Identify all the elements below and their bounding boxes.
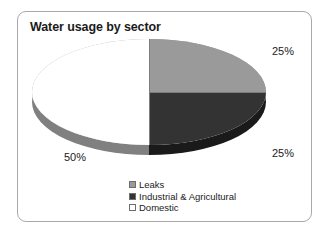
legend-label-industrial: Industrial & Agricultural [139,191,236,202]
pie-chart-3d [32,39,266,159]
legend-item-domestic[interactable]: Domestic [129,202,236,214]
legend-item-leaks[interactable]: Leaks [129,179,236,191]
legend-label-domestic: Domestic [139,202,179,213]
chart-panel: Water usage by sector 25% 25% 50% Leaks … [17,11,312,222]
legend-item-industrial[interactable]: Industrial & Agricultural [129,191,236,203]
data-label-leaks: 25% [272,45,294,57]
chart-title: Water usage by sector [30,20,161,34]
legend-swatch-leaks [129,181,136,188]
data-label-industrial: 25% [272,147,294,159]
slice-divider-horizontal [149,92,266,93]
legend-swatch-industrial [129,193,136,200]
legend-label-leaks: Leaks [139,179,164,190]
chart-legend: Leaks Industrial & Agricultural Domestic [129,179,236,214]
legend-swatch-domestic [129,204,136,211]
pie-top-face [32,39,266,145]
data-label-domestic: 50% [64,151,86,163]
